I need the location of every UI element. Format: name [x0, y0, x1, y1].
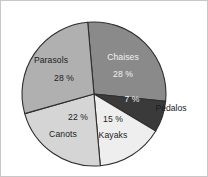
- pie-chart-canvas: Chaises28 %7 %PédalosKayaks15 %Canots22 …: [1, 1, 208, 177]
- pie-label-pdalos: Pédalos: [155, 103, 186, 113]
- pie-label-canots: Canots: [49, 129, 77, 139]
- pie-value-parasols: 28 %: [54, 73, 74, 83]
- pie-label-kayaks: Kayaks: [99, 130, 128, 140]
- pie-slices-group: [22, 22, 166, 166]
- pie-value-pdalos: 7 %: [124, 94, 139, 104]
- pie-value-canots: 22 %: [68, 112, 88, 122]
- pie-chart-figure: Chaises28 %7 %PédalosKayaks15 %Canots22 …: [0, 0, 208, 177]
- pie-label-parasols: Parasols: [34, 55, 68, 65]
- pie-value-chaises: 28 %: [113, 69, 133, 79]
- pie-value-kayaks: 15 %: [103, 114, 123, 124]
- pie-label-chaises: Chaises: [107, 52, 139, 62]
